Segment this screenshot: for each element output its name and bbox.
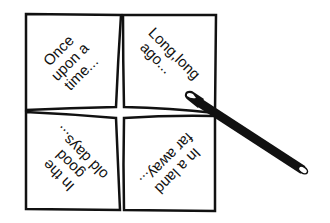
story-starter-diagram: Once upon a time... Long,long ago... In … <box>0 0 330 223</box>
